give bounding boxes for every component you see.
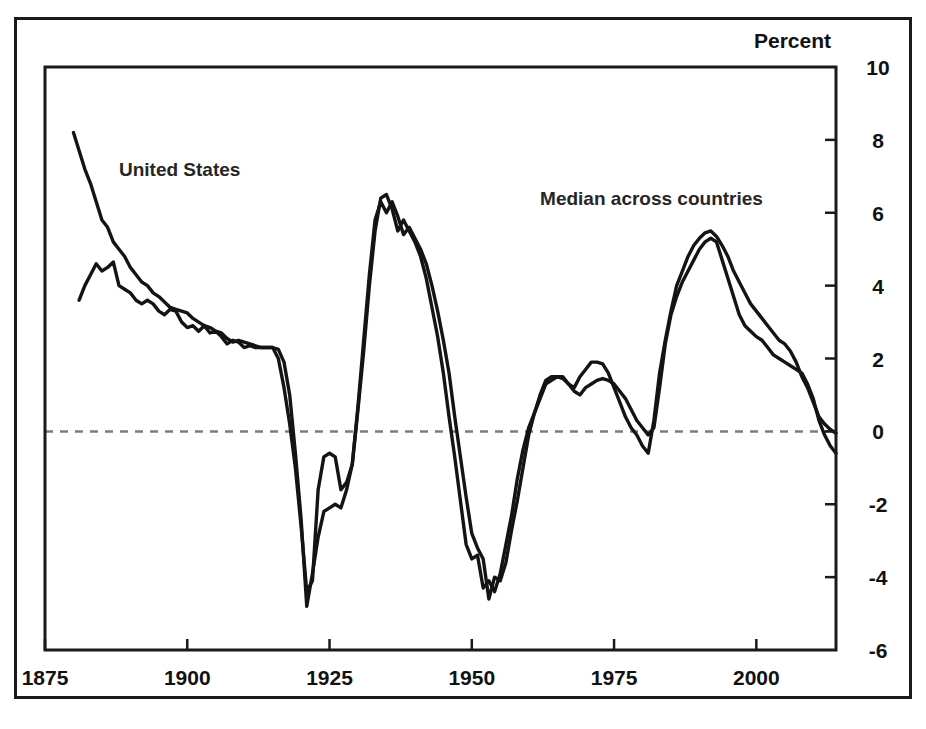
x-tick-label: 1875 — [22, 666, 69, 689]
x-tick-label: 1925 — [306, 666, 353, 689]
y-tick-label: -4 — [869, 566, 888, 589]
series-line-2 — [79, 202, 836, 599]
series-annotations: United StatesMedian across countries — [119, 159, 763, 209]
y-tick-label: -6 — [869, 639, 888, 662]
y-axis-tick-labels: 1086420-2-4-6 — [866, 56, 889, 662]
x-tick-label: 1975 — [591, 666, 638, 689]
series-annotation-1: United States — [119, 159, 240, 180]
y-axis-ticks — [825, 140, 836, 577]
chart-canvas: 187519001925195019752000 1086420-2-4-6 P… — [0, 0, 926, 729]
y-tick-label: 6 — [872, 202, 884, 225]
y-axis-unit-label: Percent — [754, 29, 831, 52]
x-tick-label: 1900 — [164, 666, 211, 689]
y-tick-label: 0 — [872, 420, 884, 443]
x-axis-tick-labels: 187519001925195019752000 — [22, 666, 780, 689]
x-tick-label: 2000 — [733, 666, 780, 689]
series-annotation-2: Median across countries — [540, 188, 763, 209]
x-tick-label: 1950 — [448, 666, 495, 689]
figure-container: 187519001925195019752000 1086420-2-4-6 P… — [0, 0, 926, 729]
y-tick-label: 2 — [872, 348, 884, 371]
y-tick-label: 8 — [872, 129, 884, 152]
y-tick-label: -2 — [869, 493, 888, 516]
x-axis-ticks — [45, 639, 756, 650]
y-tick-label: 10 — [866, 56, 889, 79]
y-tick-label: 4 — [872, 275, 884, 298]
